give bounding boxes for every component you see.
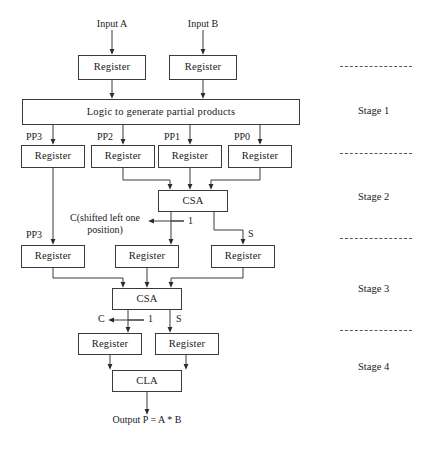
signal-label-s-stage3: S — [176, 313, 182, 325]
register-pp3-stage1[interactable]: Register — [21, 145, 85, 168]
register-pp2-stage1[interactable]: Register — [91, 145, 155, 168]
register-input-a[interactable]: Register — [78, 55, 146, 80]
stage-separator-3 — [340, 238, 412, 239]
signal-label-shift-one-stage3: 1 — [148, 313, 153, 325]
register-pp0-stage1[interactable]: Register — [228, 145, 292, 168]
csa-stage2[interactable]: CSA — [158, 190, 228, 212]
stage-separator-1 — [340, 66, 412, 67]
csa-stage3[interactable]: CSA — [112, 288, 182, 310]
stage-label-4: Stage 4 — [358, 361, 389, 372]
partial-product-logic[interactable]: Logic to generate partial products — [22, 99, 300, 125]
register-s-stage3[interactable]: Register — [155, 333, 219, 355]
stage-separator-2 — [340, 153, 412, 154]
signal-label-s-stage2: S — [248, 228, 254, 240]
register-input-b[interactable]: Register — [169, 55, 237, 80]
input-b-label: Input B — [188, 18, 218, 30]
signal-label-shift-one-stage2: 1 — [188, 215, 193, 227]
stage-separator-4 — [340, 330, 412, 331]
stage-label-3: Stage 3 — [358, 283, 389, 294]
stage-label-2: Stage 2 — [358, 191, 389, 202]
register-c-stage2[interactable]: Register — [115, 245, 179, 268]
register-c-stage3[interactable]: Register — [78, 333, 142, 355]
multiplier-pipeline-diagram: Input A Input B Register Register Logic … — [0, 0, 427, 455]
signal-label-pp3-top: PP3 — [26, 131, 42, 143]
signal-label-pp1: PP1 — [164, 131, 180, 143]
signal-label-pp2: PP2 — [97, 131, 113, 143]
signal-label-pp3-mid: PP3 — [26, 229, 42, 241]
input-a-label: Input A — [97, 18, 127, 30]
signal-label-c-shifted: C(shifted left one position) — [58, 212, 153, 235]
signal-label-c-stage3: C — [98, 313, 105, 325]
register-pp1-stage1[interactable]: Register — [158, 145, 222, 168]
register-s-stage2[interactable]: Register — [211, 245, 275, 268]
signal-label-pp0: PP0 — [234, 131, 250, 143]
stage-label-1: Stage 1 — [358, 105, 389, 116]
output-label: Output P = A * B — [113, 414, 182, 426]
cla-stage4[interactable]: CLA — [112, 370, 182, 392]
register-pp3-stage2[interactable]: Register — [21, 245, 85, 268]
